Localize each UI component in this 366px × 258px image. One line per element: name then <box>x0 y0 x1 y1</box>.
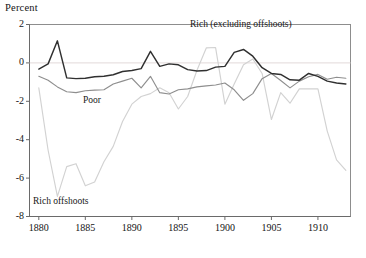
y-tick-label: -6 <box>2 172 24 183</box>
y-tick-label: -2 <box>2 95 24 106</box>
y-tick-label: -8 <box>2 210 24 221</box>
y-tick-label: -4 <box>2 133 24 144</box>
series-label-rich-offshoots: Rich offshoots <box>33 196 89 206</box>
chart-root: Percent 20-2-4-6-8 188018851890189519001… <box>0 0 366 258</box>
series-label-poor: Poor <box>83 95 101 105</box>
data-series-group <box>39 41 346 197</box>
y-tick-label: 2 <box>2 18 24 29</box>
x-tick-label: 1895 <box>158 222 198 233</box>
x-tick-label: 1910 <box>298 222 338 233</box>
x-tick-label: 1890 <box>112 222 152 233</box>
x-tick-label: 1900 <box>205 222 245 233</box>
series-label-rich: Rich (excluding offshoots) <box>190 19 292 29</box>
x-tick-label: 1880 <box>19 222 59 233</box>
x-tick-label: 1905 <box>251 222 291 233</box>
chart-canvas <box>0 0 366 258</box>
x-tick-label: 1885 <box>65 222 105 233</box>
y-tick-label: 0 <box>2 56 24 67</box>
axis-ticks <box>26 25 318 221</box>
